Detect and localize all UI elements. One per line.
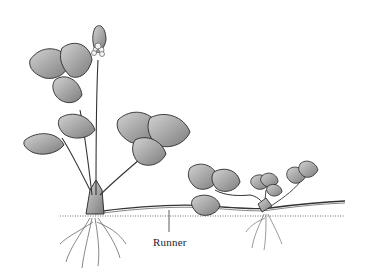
daughter-roots bbox=[246, 214, 282, 250]
runner-label: Runner bbox=[153, 236, 187, 248]
mother-leaves bbox=[24, 26, 190, 166]
daughter-plant-leaves bbox=[251, 161, 318, 196]
runner-node-stem bbox=[215, 190, 264, 206]
strawberry-runner-diagram: Runner bbox=[0, 0, 371, 279]
mother-roots bbox=[60, 218, 126, 268]
mother-crown bbox=[86, 180, 104, 214]
runner-stem bbox=[95, 201, 345, 214]
